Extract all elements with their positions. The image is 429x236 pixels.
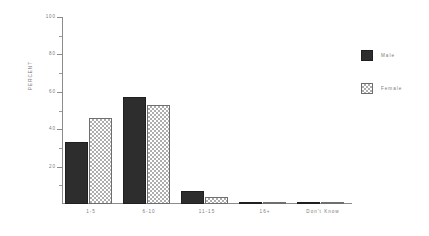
bar-female-1-5[interactable]: [89, 118, 112, 204]
bar-group: [297, 17, 344, 204]
x-tick-label: 16+: [236, 209, 294, 214]
x-tick-label: 11-15: [178, 209, 236, 214]
bar-female-don-t-know[interactable]: [321, 202, 344, 204]
bar-group: [123, 17, 170, 204]
y-tick-label: 100: [16, 14, 56, 19]
x-tick-label: 1-5: [62, 209, 120, 214]
bar-male-16-[interactable]: [239, 202, 262, 204]
bar-male-don-t-know[interactable]: [297, 202, 320, 204]
legend-swatch-male-icon: [361, 50, 373, 61]
bar-female-6-10[interactable]: [147, 105, 170, 204]
x-tick-label: Don't Know: [294, 209, 352, 214]
legend-label-male: Male: [381, 53, 395, 58]
bar-group: [181, 17, 228, 204]
y-tick-label: 40: [16, 126, 56, 131]
bar-male-6-10[interactable]: [123, 97, 146, 204]
legend-swatch-female-icon: [361, 83, 373, 94]
plot-area: [62, 17, 352, 204]
y-tick-label: 80: [16, 51, 56, 56]
bar-chart-figure: PERCENT 10080604020 1-56-1011-1516+Don't…: [0, 0, 429, 236]
y-axis-title: PERCENT: [28, 30, 33, 90]
bar-male-1-5[interactable]: [65, 142, 88, 204]
x-tick-label: 6-10: [120, 209, 178, 214]
bar-female-11-15[interactable]: [205, 197, 228, 204]
y-tick-label: 60: [16, 89, 56, 94]
bar-male-11-15[interactable]: [181, 191, 204, 204]
bar-group: [239, 17, 286, 204]
bar-female-16-[interactable]: [263, 202, 286, 204]
legend-label-female: Female: [381, 86, 402, 91]
bar-group: [65, 17, 112, 204]
y-tick-label: 20: [16, 164, 56, 169]
